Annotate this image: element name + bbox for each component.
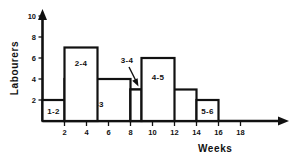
x-tick-label-4: 4 [84, 128, 89, 137]
x-tick-label-2: 2 [62, 128, 66, 137]
bar-5-6: 5-6 [197, 100, 219, 121]
y-tick-label-6: 6 [32, 54, 36, 63]
x-tick-label-6: 6 [106, 128, 110, 137]
bar-4-5: 4-5 [142, 58, 175, 121]
bar-rect-4-5 [142, 58, 175, 121]
y-tick-label-2: 2 [32, 96, 36, 105]
y-axis-tick-labels: 2 4 6 8 10 [28, 12, 37, 105]
annotation-label-3-4: 3-4 [121, 56, 134, 65]
y-tick-label-10: 10 [28, 12, 36, 21]
bar-label-4-5: 4-5 [152, 73, 165, 82]
bar-label-2-4: 2-4 [75, 59, 88, 68]
x-axis-arrowhead [278, 117, 289, 126]
x-tick-label-18: 18 [236, 128, 244, 137]
histogram-chart: 2 4 6 8 10 2 4 6 8 10 12 14 16 [0, 0, 299, 157]
x-tick-label-14: 14 [192, 128, 201, 137]
bar-rect-3-4 [131, 90, 142, 122]
bar-2-4: 2-4 [65, 48, 98, 122]
x-tick-label-16: 16 [214, 128, 222, 137]
bar-1-2: 1-2 [43, 100, 65, 121]
bar-label-1-2: 1-2 [47, 107, 60, 116]
y-axis-title: Labourers [9, 41, 20, 95]
y-axis-arrowhead [38, 9, 47, 20]
x-tick-label-10: 10 [148, 128, 156, 137]
bar-3-4 [131, 90, 142, 122]
bar-label-5-6: 5-6 [201, 107, 214, 116]
annotation-arrowhead-3-4 [132, 78, 138, 86]
x-axis-title: Weeks [198, 143, 233, 154]
chart-svg: 2 4 6 8 10 2 4 6 8 10 12 14 16 [0, 0, 299, 157]
x-axis-tick-labels: 2 4 6 8 10 12 14 16 18 [62, 128, 244, 137]
x-tick-label-12: 12 [170, 128, 178, 137]
y-tick-label-4: 4 [32, 75, 37, 84]
y-tick-label-8: 8 [32, 33, 36, 42]
x-tick-label-8: 8 [128, 128, 132, 137]
